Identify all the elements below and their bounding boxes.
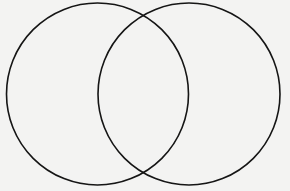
venn-diagram-canvas: [0, 0, 290, 191]
venn-diagram: [0, 0, 290, 191]
